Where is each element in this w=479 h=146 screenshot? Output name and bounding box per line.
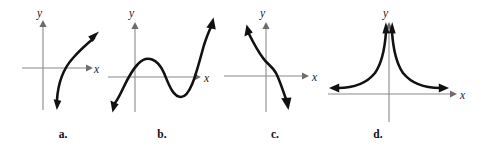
y-axis-label-b: y: [128, 7, 135, 20]
curve-b: [115, 27, 211, 103]
x-axis-arrowhead-a: [86, 64, 93, 71]
x-axis-arrowhead-c: [302, 72, 309, 79]
graph-c-svg: x y: [222, 0, 334, 122]
y-axis-arrowhead-b: [131, 22, 138, 29]
curve-d-left-arrowhead: [329, 83, 339, 92]
x-axis-label-a: x: [93, 63, 100, 75]
x-axis-label-b: x: [203, 72, 210, 84]
x-axis-label-d: x: [459, 89, 466, 101]
curve-a-start-arrowhead: [54, 99, 62, 110]
y-axis-arrowhead-a: [39, 20, 46, 27]
panel-label-d: d.: [358, 128, 398, 140]
graph-panel-b: x y: [100, 0, 225, 146]
curve-d-right-arrowhead: [439, 83, 449, 92]
curve-d-right-branch: [392, 32, 440, 88]
curve-c: [249, 34, 286, 99]
y-axis-label-c: y: [259, 7, 266, 20]
panel-label-c: c.: [255, 128, 295, 140]
panel-label-a: a.: [43, 128, 83, 140]
graph-figure: x y x y x y: [0, 0, 479, 146]
graph-d-svg: x y: [326, 0, 479, 126]
curve-c-end-arrowhead: [281, 97, 291, 110]
y-axis-label-d: y: [382, 7, 389, 20]
panel-label-b: b.: [142, 128, 182, 140]
y-axis-label-a: y: [36, 7, 43, 20]
y-axis-arrowhead-c: [262, 22, 269, 29]
graph-b-svg: x y: [100, 0, 225, 122]
x-axis-arrowhead-d: [450, 90, 457, 97]
graph-panel-c: x y: [222, 0, 334, 146]
curve-d-left-branch: [338, 32, 386, 88]
x-axis-label-c: x: [311, 71, 318, 83]
graph-panel-d: x y: [326, 0, 479, 146]
curve-b-end-arrowhead: [206, 18, 215, 30]
